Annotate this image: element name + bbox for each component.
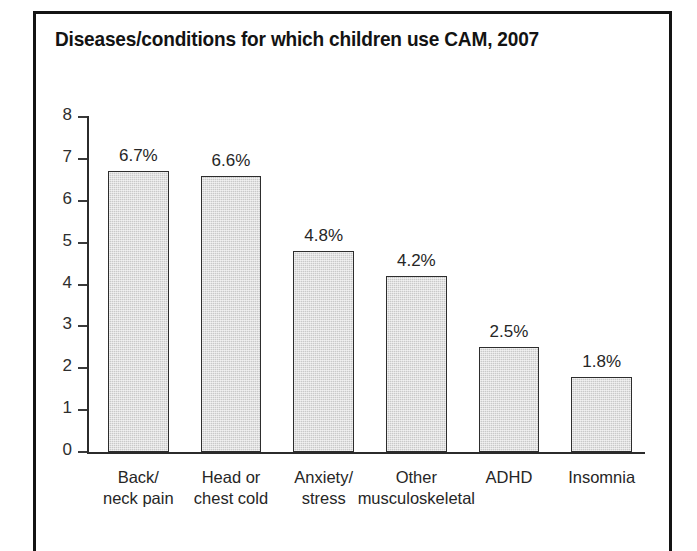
y-axis-tick-label: 4	[63, 274, 72, 291]
y-axis-tick-label: 8	[63, 106, 72, 123]
bar-value-label: 4.8%	[304, 227, 343, 244]
y-axis-tick-label: 0	[63, 441, 72, 458]
bar-rect[interactable]	[201, 176, 262, 452]
y-axis-line	[87, 116, 89, 453]
bar-rect[interactable]	[108, 171, 169, 452]
y-axis-tick: 6	[78, 200, 87, 202]
y-axis-tick-label: 5	[63, 232, 72, 249]
bar-rect[interactable]	[571, 377, 632, 452]
bar-rect[interactable]	[479, 347, 540, 452]
bar-item[interactable]: 6.6%Head or chest cold	[201, 117, 262, 452]
bar-rect[interactable]	[293, 251, 354, 452]
bar-item[interactable]: 2.5%ADHD	[479, 117, 540, 452]
plot-area: 876543210 6.7%Back/ neck pain6.6%Head or…	[89, 117, 645, 452]
y-axis-tick: 7	[78, 158, 87, 160]
bar-value-label: 6.6%	[212, 152, 251, 169]
bar-value-label: 1.8%	[582, 353, 621, 370]
bar-value-label: 6.7%	[119, 147, 158, 164]
bar-item[interactable]: 4.8%Anxiety/ stress	[293, 117, 354, 452]
bar-rect[interactable]	[386, 276, 447, 452]
bar-item[interactable]: 1.8%Insomnia	[571, 117, 632, 452]
y-axis-tick-label: 6	[63, 190, 72, 207]
y-axis-tick-label: 1	[63, 399, 72, 416]
bar-item[interactable]: 4.2%Other musculoskeletal	[386, 117, 447, 452]
x-axis-line	[87, 452, 645, 454]
y-axis-tick: 0	[78, 451, 87, 453]
y-axis-tick: 2	[78, 367, 87, 369]
y-axis-tick-label: 3	[63, 315, 72, 332]
chart-title: Diseases/conditions for which children u…	[55, 27, 613, 51]
x-axis-category-label: Insomnia	[527, 467, 677, 488]
y-axis-tick: 8	[78, 116, 87, 118]
y-axis-tick: 1	[78, 409, 87, 411]
y-axis-tick: 3	[78, 325, 87, 327]
y-axis-tick-label: 2	[63, 357, 72, 374]
bar-item[interactable]: 6.7%Back/ neck pain	[108, 117, 169, 452]
y-axis-tick: 5	[78, 242, 87, 244]
y-axis-tick-label: 7	[63, 148, 72, 165]
bar-value-label: 4.2%	[397, 252, 436, 269]
bar-value-label: 2.5%	[490, 323, 529, 340]
y-axis-tick: 4	[78, 284, 87, 286]
